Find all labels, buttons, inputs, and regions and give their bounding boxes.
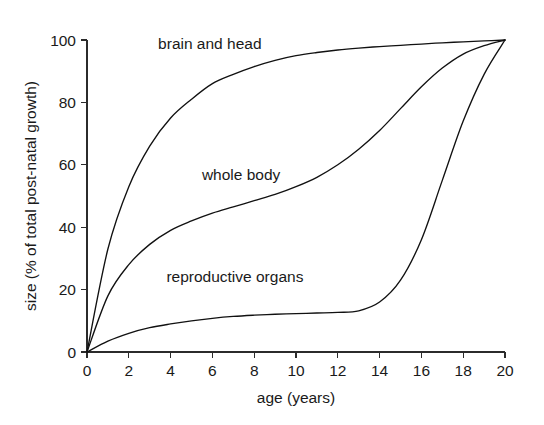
x-tick-label-6: 6 (208, 362, 217, 379)
x-tick-label-10: 10 (287, 362, 305, 379)
growth-curves-chart: 0 20 40 60 80 100 0 2 4 6 8 10 12 14 16 … (0, 0, 544, 425)
x-tick-label-20: 20 (496, 362, 514, 379)
x-axis-ticks (87, 352, 505, 358)
x-axis-title: age (years) (257, 389, 335, 406)
x-tick-label-12: 12 (329, 362, 346, 379)
y-tick-label-80: 80 (59, 94, 77, 111)
x-tick-label-8: 8 (250, 362, 259, 379)
curve-reproductive-organs (87, 40, 505, 352)
x-tick-label-14: 14 (371, 362, 389, 379)
y-axis-ticks (81, 40, 87, 352)
series-label-whole-body: whole body (201, 166, 281, 183)
y-tick-label-100: 100 (50, 32, 76, 49)
y-tick-label-40: 40 (59, 219, 77, 236)
y-axis-title: size (% of total post-natal growth) (22, 81, 39, 311)
y-tick-label-60: 60 (59, 156, 77, 173)
x-tick-label-2: 2 (124, 362, 133, 379)
series-label-brain-and-head: brain and head (158, 35, 261, 52)
x-tick-label-18: 18 (455, 362, 472, 379)
chart-canvas: 0 20 40 60 80 100 0 2 4 6 8 10 12 14 16 … (0, 0, 544, 425)
y-tick-label-20: 20 (59, 281, 77, 298)
x-tick-label-16: 16 (413, 362, 430, 379)
y-tick-label-0: 0 (67, 344, 76, 361)
curve-whole-body (87, 40, 505, 352)
series-label-reproductive-organs: reproductive organs (166, 268, 303, 285)
x-tick-label-4: 4 (166, 362, 175, 379)
curve-brain-and-head (87, 40, 505, 352)
x-tick-label-0: 0 (83, 362, 92, 379)
